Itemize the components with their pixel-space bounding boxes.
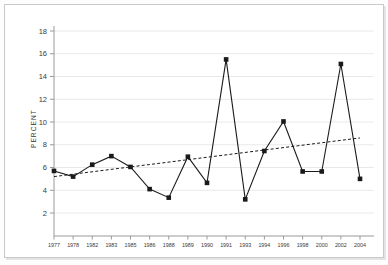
data-line-series xyxy=(54,59,360,199)
x-axis-tick-label: 1990 xyxy=(201,242,213,248)
y-axis-tick-label: 6 xyxy=(43,163,47,172)
data-point-marker xyxy=(166,195,171,200)
data-point-marker xyxy=(52,169,57,174)
trend-line-series xyxy=(54,138,360,177)
data-point-marker xyxy=(224,57,229,62)
data-point-marker xyxy=(186,154,191,159)
x-axis-tick-label: 1978 xyxy=(67,242,79,248)
x-axis-tick-label: 1988 xyxy=(163,242,175,248)
x-axis-tick-label: 1998 xyxy=(297,242,309,248)
data-point-marker xyxy=(71,174,76,179)
x-axis-tick-label: 1993 xyxy=(239,242,251,248)
y-axis-tick-label: 2 xyxy=(43,209,47,218)
x-axis-tick-label: 1985 xyxy=(125,242,137,248)
gridlines-group xyxy=(54,31,374,213)
data-point-marker xyxy=(358,177,363,182)
data-point-marker xyxy=(319,169,324,174)
data-point-marker xyxy=(205,181,210,186)
x-axis-tick-label: 1983 xyxy=(105,242,117,248)
y-axis-tick-label: 8 xyxy=(43,140,47,149)
data-point-marker xyxy=(300,169,305,174)
data-point-marker xyxy=(147,187,152,192)
data-point-marker xyxy=(262,149,267,154)
x-axis-tick-labels-group: 1977197819821983198519861988198919901991… xyxy=(48,242,366,248)
y-axis-tick-label: 4 xyxy=(43,186,47,195)
x-axis-tick-label: 1982 xyxy=(86,242,98,248)
x-axis-tick-label: 2002 xyxy=(335,242,347,248)
chart-figure: PERCENT 24681012141618 19771978198219831… xyxy=(0,0,388,265)
y-axis-tick-label: 16 xyxy=(39,49,47,58)
y-axis-tick-label: 12 xyxy=(39,95,47,104)
x-axis-tick-label: 1991 xyxy=(220,242,232,248)
data-point-marker xyxy=(109,154,114,159)
y-axis-ticks-group xyxy=(50,31,54,213)
x-axis-tick-label: 2004 xyxy=(354,242,366,248)
x-axis-tick-label: 1977 xyxy=(48,242,60,248)
data-point-marker xyxy=(281,119,286,124)
x-axis-tick-label: 1986 xyxy=(144,242,156,248)
data-point-marker xyxy=(243,197,248,202)
y-axis-tick-label: 10 xyxy=(39,118,47,127)
data-point-marker xyxy=(128,165,133,170)
y-axis-tick-labels-group: 24681012141618 xyxy=(39,27,47,218)
x-axis-tick-label: 1989 xyxy=(182,242,194,248)
y-axis-tick-label: 14 xyxy=(39,72,47,81)
x-axis-tick-label: 2000 xyxy=(316,242,328,248)
data-point-marker xyxy=(90,162,95,167)
data-point-marker xyxy=(339,62,344,67)
x-axis-ticks-group xyxy=(54,236,360,240)
line-chart-plot: 24681012141618 1977197819821983198519861… xyxy=(0,0,388,265)
x-axis-tick-label: 1994 xyxy=(258,242,270,248)
x-axis-tick-label: 1996 xyxy=(278,242,290,248)
y-axis-tick-label: 18 xyxy=(39,27,47,36)
